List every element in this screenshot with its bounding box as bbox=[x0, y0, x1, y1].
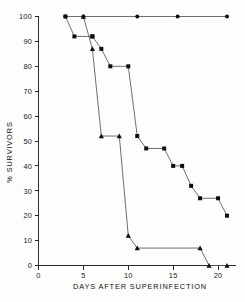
data-point-marker-group-triangles bbox=[90, 46, 95, 51]
data-point-marker-group-squares bbox=[189, 184, 193, 188]
x-tick-label: 5 bbox=[81, 271, 85, 280]
y-tick-label: 20 bbox=[23, 211, 32, 220]
y-axis-title: % SURVIVORS bbox=[5, 121, 14, 182]
y-axis-tick-group: 0102030405060708090100 bbox=[19, 12, 38, 270]
y-tick-label: 90 bbox=[23, 37, 32, 46]
data-point-marker-group-squares bbox=[216, 196, 220, 200]
data-point-marker-group-squares bbox=[171, 164, 175, 168]
y-tick-label: 10 bbox=[23, 236, 32, 245]
chart-canvas: 0102030405060708090100 05101520 DAYS AFT… bbox=[0, 0, 245, 302]
data-point-marker-group-triangles bbox=[126, 233, 131, 238]
series-marker-group bbox=[63, 14, 229, 268]
x-tick-label: 20 bbox=[214, 271, 223, 280]
data-point-marker-control bbox=[135, 15, 139, 19]
survival-curve-figure: 0102030405060708090100 05101520 DAYS AFT… bbox=[0, 0, 245, 302]
data-point-marker-group-squares bbox=[72, 34, 76, 38]
x-tick-label: 0 bbox=[36, 271, 40, 280]
series-line-group-squares bbox=[65, 17, 227, 216]
data-point-marker-group-squares bbox=[198, 196, 202, 200]
data-point-marker-group-squares bbox=[135, 134, 139, 138]
x-tick-label: 10 bbox=[124, 271, 133, 280]
y-tick-label: 60 bbox=[23, 112, 32, 121]
data-point-marker-group-squares bbox=[63, 15, 67, 19]
x-axis-title: DAYS AFTER SUPERINFECTION bbox=[73, 282, 207, 291]
data-point-marker-group-squares bbox=[162, 146, 166, 150]
series-line-group bbox=[65, 17, 227, 266]
y-tick-label: 70 bbox=[23, 87, 32, 96]
data-point-marker-group-squares bbox=[126, 64, 130, 68]
data-point-marker-group-squares bbox=[225, 214, 229, 218]
y-tick-label: 30 bbox=[23, 187, 32, 196]
y-tick-label: 40 bbox=[23, 162, 32, 171]
data-point-marker-group-squares bbox=[99, 47, 103, 51]
data-point-marker-control bbox=[225, 15, 229, 19]
data-point-marker-group-squares bbox=[90, 34, 94, 38]
data-point-marker-group-squares bbox=[108, 64, 112, 68]
data-point-marker-control bbox=[176, 15, 180, 19]
y-tick-label: 0 bbox=[28, 261, 32, 270]
y-tick-label: 80 bbox=[23, 62, 32, 71]
x-axis-tick-group: 05101520 bbox=[36, 266, 222, 280]
x-tick-label: 15 bbox=[169, 271, 178, 280]
data-point-marker-group-squares bbox=[180, 164, 184, 168]
y-tick-label: 50 bbox=[23, 137, 32, 146]
y-tick-label: 100 bbox=[19, 12, 32, 21]
data-point-marker-group-squares bbox=[144, 146, 148, 150]
series-line-group-triangles bbox=[83, 17, 227, 266]
